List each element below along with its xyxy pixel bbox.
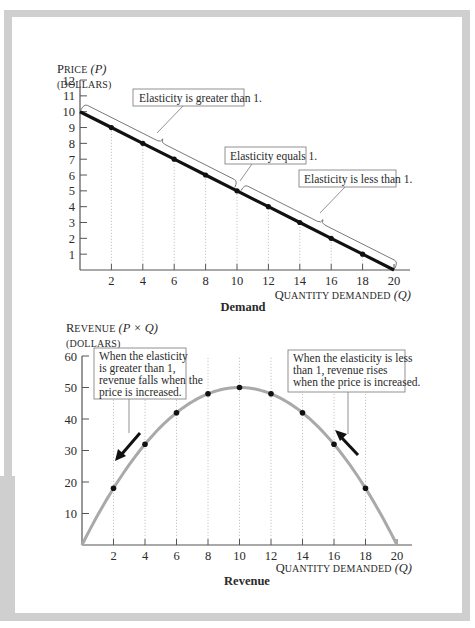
x-tick-label: 18	[356, 274, 369, 288]
y-tick-label: 10	[65, 507, 78, 521]
demand-caption: Demand	[220, 300, 265, 314]
svg-text:Elasticity is less than 1.: Elasticity is less than 1.	[304, 173, 412, 186]
data-point	[300, 410, 306, 416]
y-tick-label: 5	[69, 184, 75, 198]
y-tick-label: 7	[69, 153, 75, 167]
revenue-xlabel: QUANTITY DEMANDED(Q)	[276, 561, 412, 575]
svg-text:when the price is increased.: when the price is increased.	[293, 376, 421, 389]
x-tick-label: 18	[359, 549, 372, 563]
x-tick-label: 16	[325, 274, 338, 288]
revenue-caption: Revenue	[224, 574, 270, 588]
y-tick-label: 1	[69, 248, 75, 262]
data-point	[266, 204, 271, 209]
data-point	[329, 236, 334, 241]
x-tick-label: 20	[388, 274, 401, 288]
y-tick-label: 2	[69, 232, 75, 246]
svg-text:Elasticity is greater than 1.: Elasticity is greater than 1.	[139, 92, 262, 105]
x-tick-label: 8	[205, 549, 211, 563]
y-tick-label: 11	[63, 89, 75, 103]
demand-xlabel: QUANTITY DEMANDED(Q)	[275, 288, 411, 302]
data-point	[297, 220, 302, 225]
data-point	[203, 172, 208, 177]
svg-text:Elasticity equals 1.: Elasticity equals 1.	[230, 150, 317, 163]
x-tick-label: 4	[140, 274, 147, 288]
x-tick-label: 6	[173, 549, 179, 563]
y-tick-label: 50	[65, 381, 78, 395]
y-tick-label: 30	[65, 444, 78, 458]
data-point	[172, 157, 177, 162]
svg-text:price is increased.: price is increased.	[99, 386, 182, 399]
x-tick-label: 2	[110, 549, 116, 563]
y-tick-label: 3	[69, 216, 75, 230]
y-tick-label: 6	[69, 169, 75, 183]
data-point	[237, 385, 243, 391]
x-tick-label: 10	[233, 549, 246, 563]
data-point	[111, 486, 117, 492]
y-tick-label: 10	[63, 105, 76, 119]
data-point	[174, 410, 180, 416]
x-tick-label: 14	[296, 549, 309, 563]
x-tick-label: 16	[328, 549, 341, 563]
data-point	[140, 141, 145, 146]
data-point	[360, 252, 365, 257]
y-tick-label: 20	[65, 476, 78, 490]
y-tick-label: 40	[65, 413, 78, 427]
revenue-ylabel: REVENUE(P × Q)	[66, 321, 158, 335]
data-point	[142, 441, 148, 447]
data-point	[205, 391, 211, 397]
svg-text:revenue falls when the: revenue falls when the	[99, 374, 203, 386]
y-tick-label: 60	[65, 350, 78, 364]
data-point	[234, 188, 239, 193]
y-tick-label: 8	[69, 137, 75, 151]
x-tick-label: 6	[171, 274, 177, 288]
x-tick-label: 12	[262, 274, 275, 288]
y-tick-label: 9	[69, 121, 75, 135]
x-tick-label: 4	[142, 549, 149, 563]
y-tick-label: 12	[63, 74, 76, 88]
x-tick-label: 14	[294, 274, 307, 288]
data-point	[109, 125, 114, 130]
x-tick-label: 10	[231, 274, 244, 288]
data-point	[363, 486, 369, 492]
figure: PRICE(P) (DOLLARS) 246810121416182012345…	[0, 0, 475, 628]
x-tick-label: 2	[108, 274, 114, 288]
data-point	[331, 441, 337, 447]
data-point	[268, 391, 274, 397]
x-tick-label: 8	[202, 274, 208, 288]
y-tick-label: 4	[69, 200, 76, 214]
